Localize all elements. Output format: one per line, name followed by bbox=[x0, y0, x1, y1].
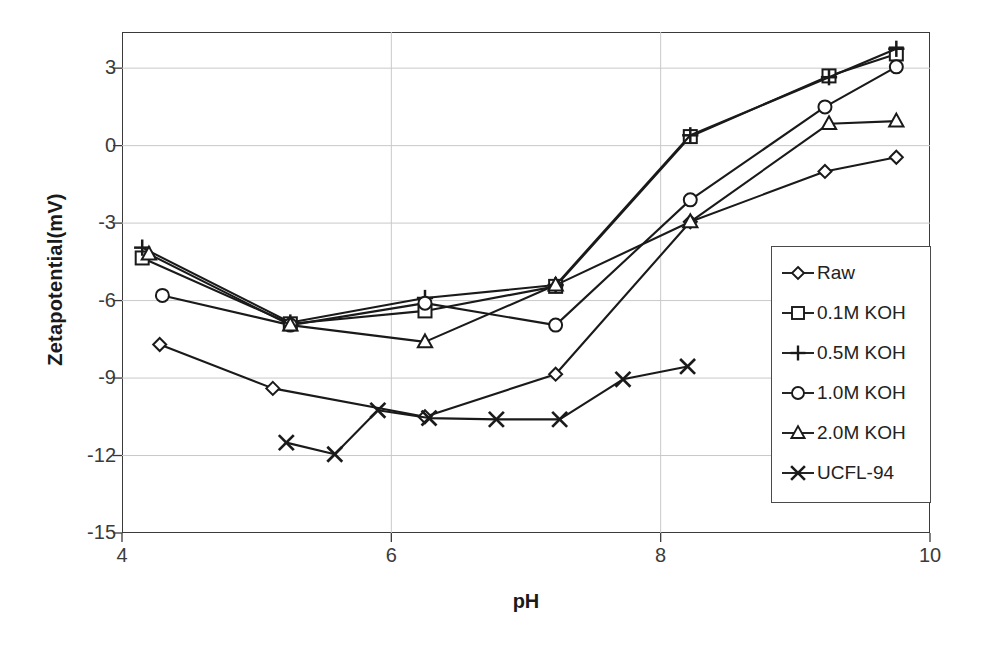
x-tick-label: 10 bbox=[900, 545, 960, 565]
y-tick-label: -9 bbox=[70, 367, 116, 387]
legend-item-raw[interactable]: Raw bbox=[780, 253, 930, 293]
square-marker-icon bbox=[780, 302, 816, 324]
x-axis-title: pH bbox=[122, 590, 930, 613]
y-axis-title: Zetapotential(mV) bbox=[44, 165, 67, 395]
triangle-marker-icon bbox=[780, 422, 816, 444]
legend-item-label: Raw bbox=[816, 262, 855, 284]
y-tick-label: 0 bbox=[70, 135, 116, 155]
y-tick-label: -6 bbox=[70, 290, 116, 310]
plus-marker-icon bbox=[780, 342, 816, 364]
legend-item-0-5m-koh[interactable]: 0.5M KOH bbox=[780, 333, 930, 373]
legend-item-label: 2.0M KOH bbox=[816, 422, 906, 444]
legend-item-1-0m-koh[interactable]: 1.0M KOH bbox=[780, 373, 930, 413]
chart-legend: Raw0.1M KOH0.5M KOH1.0M KOH2.0M KOHUCFL-… bbox=[771, 246, 931, 503]
diamond-marker-icon bbox=[780, 262, 816, 284]
legend-item-label: 0.1M KOH bbox=[816, 302, 906, 324]
y-tick-label: 3 bbox=[70, 57, 116, 77]
x-tick-label: 4 bbox=[92, 545, 152, 565]
x-tick-label: 6 bbox=[361, 545, 421, 565]
x-tick-label: 8 bbox=[631, 545, 691, 565]
y-tick-label: -3 bbox=[70, 212, 116, 232]
legend-item-2-0m-koh[interactable]: 2.0M KOH bbox=[780, 413, 930, 453]
legend-item-ucfl-94[interactable]: UCFL-94 bbox=[780, 453, 930, 493]
x-axis-tick-labels: 46810 bbox=[0, 545, 1007, 573]
legend-item-label: 1.0M KOH bbox=[816, 382, 906, 404]
cross-marker-icon bbox=[780, 462, 816, 484]
y-tick-label: -12 bbox=[70, 445, 116, 465]
legend-item-label: 0.5M KOH bbox=[816, 342, 906, 364]
y-tick-label: -15 bbox=[70, 522, 116, 542]
circle-marker-icon bbox=[780, 382, 816, 404]
legend-item-0-1m-koh[interactable]: 0.1M KOH bbox=[780, 293, 930, 333]
legend-item-label: UCFL-94 bbox=[816, 462, 894, 484]
chart-root: 30-3-6-9-12-15 46810 Zetapotential(mV) p… bbox=[0, 0, 1007, 648]
